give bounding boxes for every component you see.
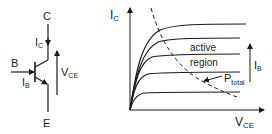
ib-arrow-label: IB (254, 59, 262, 72)
collector-label: C (43, 10, 51, 22)
bjt-diagram: C B E IC IB VCE IC VCE active region Pto… (0, 0, 272, 134)
ic-curve-1 (130, 92, 240, 110)
base-label: B (11, 57, 18, 69)
region-label-line2: region (190, 57, 218, 68)
collector-current-label: IC (35, 36, 43, 49)
base-current-label: IB (22, 76, 30, 89)
y-axis-label: IC (110, 8, 119, 23)
power-label: Ptotal (224, 72, 245, 86)
vce-label: VCE (61, 66, 78, 79)
ic-curve-5 (130, 24, 246, 110)
region-label-line1: active (190, 42, 217, 53)
power-label-pointer (204, 76, 222, 81)
x-axis-label: VCE (235, 115, 254, 130)
collector-diagonal (35, 60, 48, 67)
emitter-label: E (43, 117, 50, 129)
power-limit-curve (151, 8, 240, 98)
emitter-diagonal (35, 77, 47, 84)
